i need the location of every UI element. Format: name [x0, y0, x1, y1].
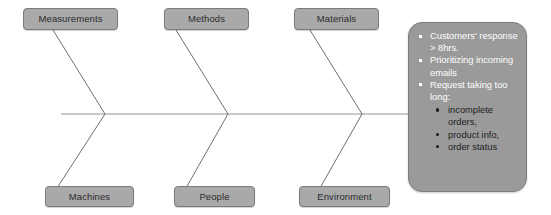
effect-sub-bullet-item: order status: [430, 141, 520, 153]
effect-bullet-item: Prioritizing incoming emails: [415, 54, 520, 78]
bone-measurements: [53, 30, 105, 114]
effect-bullet-list: Customers' response > 8hrs. Prioritizing…: [415, 30, 520, 153]
square-bullet-icon: [419, 83, 422, 86]
fishbone-diagram-canvas: Measurements Methods Materials Machines …: [0, 0, 551, 215]
cause-box-measurements-label: Measurements: [38, 14, 102, 24]
dot-bullet-icon: [436, 145, 439, 148]
effect-sub-bullet-item: incomplete orders,: [430, 104, 520, 128]
dot-bullet-icon: [436, 108, 439, 111]
effect-bullet-text: Request taking too long:: [430, 80, 508, 102]
cause-box-methods-label: Methods: [188, 14, 225, 24]
effect-panel[interactable]: Customers' response > 8hrs. Prioritizing…: [408, 22, 527, 192]
cause-box-measurements[interactable]: Measurements: [23, 8, 118, 30]
effect-sub-bullet-text: product info,: [448, 130, 499, 140]
bone-methods: [176, 30, 228, 114]
cause-box-materials[interactable]: Materials: [294, 8, 379, 30]
cause-box-people-label: People: [199, 192, 229, 202]
cause-box-environment[interactable]: Environment: [299, 186, 390, 207]
effect-sub-bullet-text: incomplete orders,: [448, 105, 493, 127]
effect-sub-bullet-text: order status: [448, 142, 497, 152]
effect-bullet-text: Prioritizing incoming emails: [430, 55, 513, 77]
bone-machines: [57, 114, 105, 188]
square-bullet-icon: [419, 59, 422, 62]
cause-box-machines[interactable]: Machines: [45, 186, 134, 207]
effect-bullet-item: Customers' response > 8hrs.: [415, 30, 520, 54]
square-bullet-icon: [419, 35, 422, 38]
cause-box-machines-label: Machines: [69, 192, 110, 202]
effect-sub-bullet-item: product info,: [430, 129, 520, 141]
cause-box-people[interactable]: People: [174, 186, 255, 207]
bone-environment: [320, 114, 362, 188]
effect-bullet-text: Customers' response > 8hrs.: [430, 31, 518, 53]
cause-box-methods[interactable]: Methods: [164, 8, 249, 30]
bone-people: [186, 114, 228, 188]
effect-bullet-item: Request taking too long: incomplete orde…: [415, 79, 520, 153]
cause-box-environment-label: Environment: [317, 192, 371, 202]
bone-materials: [310, 30, 362, 114]
cause-box-materials-label: Materials: [317, 14, 356, 24]
dot-bullet-icon: [436, 133, 439, 136]
effect-sub-bullet-list: incomplete orders, product info, order s…: [430, 104, 520, 153]
